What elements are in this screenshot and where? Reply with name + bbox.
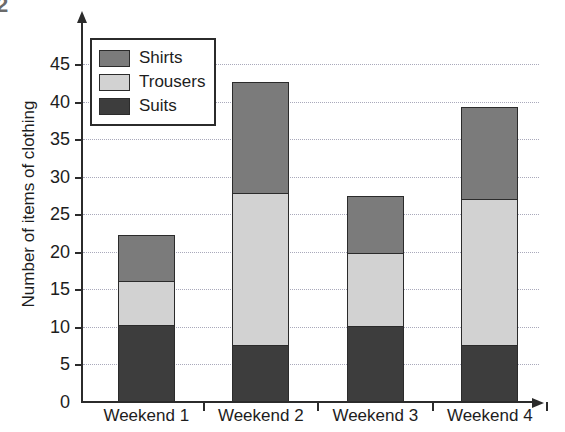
x-tick-mark — [203, 402, 205, 411]
bar-segment-suits — [119, 326, 174, 401]
stacked-bar-chart: 2 Number of items of clothing 0510152025… — [0, 0, 565, 432]
figure-number: 2 — [0, 0, 8, 16]
y-tick-label: 25 — [50, 204, 70, 225]
bar-stack — [118, 235, 175, 402]
y-tick-label: 35 — [50, 129, 70, 150]
bar-segment-trousers — [462, 200, 517, 346]
legend-swatch-trousers — [99, 74, 130, 91]
y-tick-label: 30 — [50, 166, 70, 187]
y-tick-label: 0 — [60, 392, 70, 413]
x-tick-mark — [432, 402, 434, 411]
y-tick-label: 45 — [50, 54, 70, 75]
y-tick-label: 5 — [60, 354, 70, 375]
legend-item-shirts: Shirts — [99, 46, 206, 70]
y-tick-mark — [75, 139, 82, 141]
y-tick-label: 40 — [50, 91, 70, 112]
x-tick-label: Weekend 4 — [447, 406, 533, 426]
legend-label: Shirts — [139, 48, 182, 68]
y-tick-mark — [75, 214, 82, 216]
bar-segment-shirts — [348, 197, 403, 254]
legend-item-suits: Suits — [99, 94, 206, 118]
bar-segment-shirts — [462, 108, 517, 200]
bar-segment-suits — [348, 327, 403, 401]
bar-segment-shirts — [233, 83, 288, 194]
bar-stack — [461, 107, 518, 402]
bar-segment-trousers — [119, 282, 174, 326]
bar-segment-suits — [233, 346, 288, 401]
y-tick-mark — [75, 364, 82, 366]
bar-segment-trousers — [233, 194, 288, 346]
x-axis-arrow-icon — [532, 398, 544, 408]
y-tick-mark — [75, 289, 82, 291]
y-tick-label: 10 — [50, 316, 70, 337]
bar-stack — [347, 196, 404, 402]
bar-segment-suits — [462, 346, 517, 401]
bar-segment-shirts — [119, 236, 174, 283]
x-tick-label: Weekend 1 — [103, 406, 189, 426]
y-tick-mark — [75, 252, 82, 254]
x-tick-label: Weekend 3 — [332, 406, 418, 426]
legend-swatch-suits — [99, 98, 130, 115]
y-tick-mark — [75, 327, 82, 329]
y-tick-label: 15 — [50, 279, 70, 300]
x-tick-mark — [546, 402, 548, 411]
y-axis-arrow-icon — [77, 11, 87, 23]
y-tick-mark — [75, 102, 82, 104]
legend-label: Suits — [139, 96, 177, 116]
y-axis-title: Number of items of clothing — [12, 0, 46, 432]
y-axis-line — [81, 22, 83, 403]
legend-item-trousers: Trousers — [99, 70, 206, 94]
x-tick-mark — [317, 402, 319, 411]
y-tick-mark — [75, 64, 82, 66]
y-tick-mark — [75, 177, 82, 179]
legend-label: Trousers — [139, 72, 205, 92]
legend: ShirtsTrousersSuits — [90, 38, 216, 126]
x-tick-label: Weekend 2 — [218, 406, 304, 426]
bar-stack — [232, 82, 289, 402]
y-axis-title-text: Number of items of clothing — [19, 101, 39, 308]
y-tick-label: 20 — [50, 241, 70, 262]
bar-segment-trousers — [348, 254, 403, 328]
legend-swatch-shirts — [99, 50, 130, 67]
